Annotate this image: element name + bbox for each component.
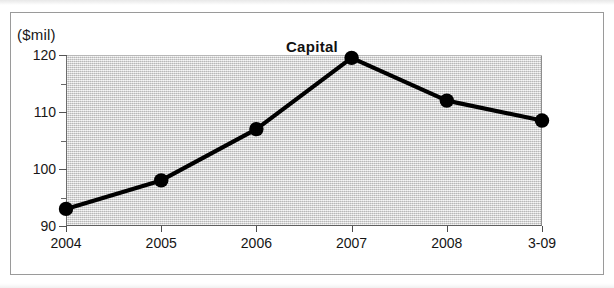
scan-artifact-top [0, 0, 614, 5]
y-axis-tick-minor [61, 84, 67, 85]
x-axis-tick [161, 226, 162, 232]
y-axis-tick-label: 120 [12, 47, 56, 63]
y-axis-tick-major [59, 169, 67, 170]
x-axis-tick-label: 2005 [146, 235, 177, 251]
y-axis-tick-minor [61, 198, 67, 199]
x-axis-tick [542, 226, 543, 232]
x-axis-tick-label: 3-09 [528, 235, 556, 251]
x-axis-tick [447, 226, 448, 232]
y-axis-tick-label: 110 [12, 104, 56, 120]
x-axis-tick [352, 226, 353, 232]
x-axis-tick-label: 2008 [431, 235, 462, 251]
y-axis: 90100110120 [8, 0, 56, 288]
y-axis-tick-minor [61, 141, 67, 142]
y-axis-tick-major [59, 112, 67, 113]
scan-artifact-bottom [0, 283, 614, 288]
x-axis-tick-label: 2007 [336, 235, 367, 251]
y-axis-tick-label: 90 [12, 218, 56, 234]
x-axis-tick-label: 2006 [241, 235, 272, 251]
x-axis-tick-label: 2004 [50, 235, 81, 251]
page-title: Capital [11, 38, 605, 55]
y-axis-tick-label: 100 [12, 161, 56, 177]
plot-area [66, 55, 542, 226]
y-axis-tick-major [59, 55, 67, 56]
x-axis-tick [256, 226, 257, 232]
x-axis-tick [66, 226, 67, 232]
plot-area-top-edge [66, 55, 542, 56]
